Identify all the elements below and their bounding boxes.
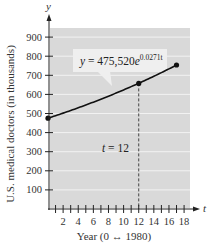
y-tick-label: 800 (26, 51, 42, 62)
y-tick-label: 700 (26, 70, 42, 81)
data-point (45, 116, 50, 121)
y-axis-label: U.S. medical doctors (in thousands) (4, 45, 17, 203)
y-axis-name: y (45, 0, 51, 12)
x-tick-label: 2 (60, 216, 65, 227)
y-axis-ticks: 100200300400500600700800900 (26, 32, 53, 196)
x-tick-label: 16 (164, 216, 175, 227)
x-tick-label: 10 (118, 216, 129, 227)
x-tick-label: 12 (133, 216, 144, 227)
x-tick-label: 8 (106, 216, 111, 227)
y-axis-arrow-icon (47, 14, 52, 21)
y-tick-label: 300 (26, 146, 42, 157)
x-axis-label: Year (0 ↔ 1980) (77, 230, 152, 243)
y-tick-label: 100 (26, 184, 42, 195)
t12-label: t = 12 (102, 142, 129, 154)
y-tick-label: 600 (26, 89, 42, 100)
x-axis-arrow-icon (193, 207, 200, 212)
x-tick-label: 4 (76, 216, 82, 227)
x-tick-label: 6 (91, 216, 96, 227)
y-tick-label: 500 (26, 108, 42, 119)
x-tick-label: 14 (149, 216, 160, 227)
x-axis-name: t (203, 202, 207, 214)
y-tick-label: 400 (26, 127, 42, 138)
data-point (136, 81, 141, 86)
data-point (174, 62, 179, 67)
equation-exponent: 0.0271t (140, 53, 164, 62)
y-tick-label: 200 (26, 165, 42, 176)
y-tick-label: 900 (26, 32, 42, 43)
chart: y = 475,520e0.0271t t = 12 y t 100200300… (0, 0, 211, 249)
x-tick-label: 18 (179, 216, 190, 227)
x-axis-ticks: 24681012141618 (56, 205, 190, 227)
